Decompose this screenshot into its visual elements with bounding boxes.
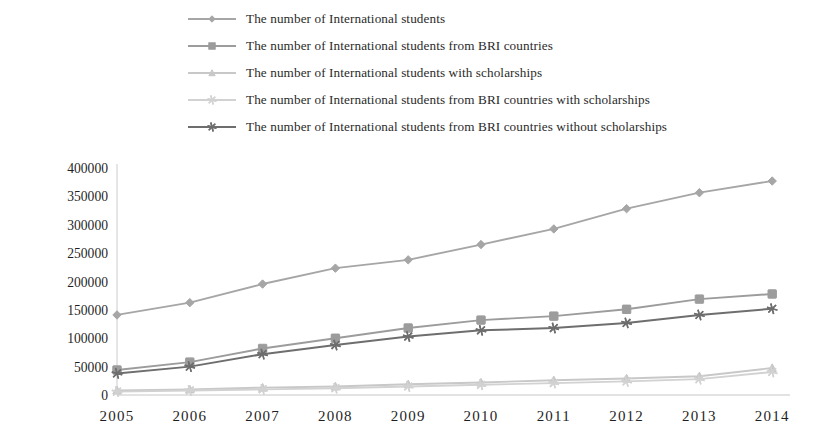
data-point-square-icon xyxy=(695,295,703,303)
y-tick-label: 100000 xyxy=(67,331,108,346)
x-axis: 2005200620072008200920102011201220132014 xyxy=(100,408,790,424)
series-line xyxy=(113,177,777,319)
series-line xyxy=(113,290,777,374)
x-tick-label: 2007 xyxy=(245,408,280,424)
y-tick-label: 150000 xyxy=(67,303,108,318)
data-point-diamond-icon xyxy=(477,240,485,248)
series-line xyxy=(112,367,778,397)
data-point-square-icon xyxy=(477,316,485,324)
x-tick-label: 2014 xyxy=(755,408,790,424)
data-point-diamond-icon xyxy=(695,188,703,196)
y-tick-label: 300000 xyxy=(67,218,108,233)
data-point-square-icon xyxy=(768,290,776,298)
x-tick-label: 2005 xyxy=(100,408,135,424)
data-point-diamond-icon xyxy=(404,256,412,264)
x-tick-label: 2013 xyxy=(682,408,717,424)
x-tick-label: 2010 xyxy=(464,408,499,424)
x-tick-label: 2011 xyxy=(537,408,571,424)
y-tick-label: 50000 xyxy=(74,360,108,375)
x-tick-label: 2006 xyxy=(172,408,207,424)
data-point-square-icon xyxy=(622,305,630,313)
x-tick-label: 2008 xyxy=(318,408,353,424)
data-point-diamond-icon xyxy=(113,311,121,319)
data-point-diamond-icon xyxy=(186,298,194,306)
data-point-diamond-icon xyxy=(550,225,558,233)
plot-area: 0500001000001500002000002500003000003500… xyxy=(0,0,819,447)
data-point-square-icon xyxy=(550,312,558,320)
data-point-diamond-icon xyxy=(331,264,339,272)
data-point-diamond-icon xyxy=(768,177,776,185)
series-lines xyxy=(112,177,778,397)
x-tick-label: 2012 xyxy=(609,408,644,424)
y-tick-label: 0 xyxy=(101,388,108,403)
y-tick-label: 250000 xyxy=(67,246,108,261)
chart-svg: 0500001000001500002000002500003000003500… xyxy=(0,0,819,447)
y-tick-label: 400000 xyxy=(67,161,108,176)
x-tick-label: 2009 xyxy=(391,408,426,424)
data-point-diamond-icon xyxy=(622,204,630,212)
series-line xyxy=(112,304,778,379)
data-point-square-icon xyxy=(404,324,412,332)
y-tick-label: 200000 xyxy=(67,275,108,290)
data-point-diamond-icon xyxy=(258,280,266,288)
y-tick-label: 350000 xyxy=(67,189,108,204)
chart-root: The number of International students The… xyxy=(0,0,819,447)
